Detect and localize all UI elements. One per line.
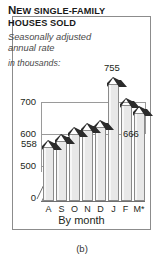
title-line1: EW SINGLE-FAMILY xyxy=(16,6,105,16)
bar-D xyxy=(95,127,106,201)
y-axis-upper xyxy=(41,102,42,166)
figure-panel: NEW SINGLE-FAMILY HOUSES SOLD Seasonally… xyxy=(0,0,164,268)
y-tick-label-500: 500 xyxy=(14,160,36,171)
y-tick-label-0: 0 xyxy=(14,192,36,203)
bar-F xyxy=(121,105,132,201)
value-label-755: 755 xyxy=(104,62,120,73)
x-tick-label-6: F xyxy=(120,204,131,214)
roof-cap-J xyxy=(106,77,128,89)
x-tick-label-1: S xyxy=(56,204,67,214)
x-axis-baseline xyxy=(41,201,145,202)
y-tick-label-700: 700 xyxy=(14,96,36,107)
x-tick-label-0: A xyxy=(43,204,54,214)
bar-A xyxy=(43,147,54,201)
x-tick-label-7: M* xyxy=(132,204,146,214)
value-label-666: 666 xyxy=(123,128,139,139)
bar-Mstar xyxy=(134,113,145,201)
x-tick-label-2: O xyxy=(69,204,80,214)
value-label-558: 558 xyxy=(21,138,37,149)
x-tick-label-5: J xyxy=(108,204,119,214)
x-tick-label-4: D xyxy=(95,204,106,214)
title-initial: N xyxy=(8,4,16,16)
roof-cap-Mstar xyxy=(132,106,154,118)
plot-area: 700 600 500 0 xyxy=(12,16,151,230)
x-tick-label-3: N xyxy=(82,204,93,214)
roof-cap-D xyxy=(93,120,115,132)
bar-J xyxy=(108,84,119,201)
bar-N xyxy=(82,130,93,201)
x-axis-title: By month xyxy=(12,214,151,226)
figure-caption: (b) xyxy=(0,243,164,254)
